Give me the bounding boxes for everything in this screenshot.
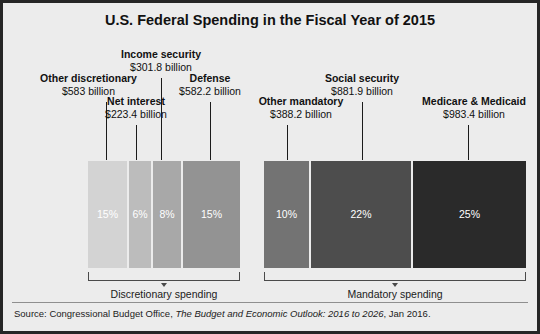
bar-income-security[interactable]: 8% (153, 161, 181, 268)
source-suffix: , Jan 2016. (384, 308, 431, 319)
leader-line-net-interest (136, 125, 137, 160)
callout-label-social-security: Social security (298, 72, 426, 85)
chart-title: U.S. Federal Spending in the Fiscal Year… (3, 12, 537, 28)
source-note: Source: Congressional Budget Office, The… (14, 308, 431, 319)
callout-value-medicare-medicaid: $983.4 billion (410, 108, 538, 121)
group-label-discretionary: Discretionary spending (88, 288, 240, 300)
callout-social-security: Social security $881.9 billion (298, 72, 426, 97)
leader-line-medicare-medicaid (468, 125, 469, 160)
bar-medicare-medicaid[interactable]: 25% (413, 161, 526, 268)
bracket-mandatory (264, 272, 526, 281)
callout-label-medicare-medicaid: Medicare & Medicaid (410, 95, 538, 108)
bar-pct-other-discretionary: 15% (88, 208, 127, 220)
bar-other-mandatory[interactable]: 10% (264, 161, 309, 268)
bracket-tick-mandatory (392, 283, 398, 287)
callout-value-social-security: $881.9 billion (298, 85, 426, 98)
bar-pct-defense: 15% (183, 208, 240, 220)
bar-pct-medicare-medicaid: 25% (413, 208, 526, 220)
callout-income-security: Income security $301.8 billion (97, 48, 225, 73)
callout-other-discretionary: Other discretionary $583 billion (11, 72, 166, 97)
leader-line-other-mandatory (287, 125, 288, 160)
callout-label-other-discretionary: Other discretionary (11, 72, 166, 85)
callout-defense: Defense $582.2 billion (155, 72, 265, 97)
bar-defense[interactable]: 15% (183, 161, 240, 268)
bar-pct-income-security: 8% (153, 208, 181, 220)
bracket-tick-discretionary (161, 283, 167, 287)
callout-value-net-interest: $223.4 billion (72, 108, 200, 121)
bar-net-interest[interactable]: 6% (129, 161, 151, 268)
bar-pct-social-security: 22% (311, 208, 411, 220)
bar-pct-net-interest: 6% (129, 208, 151, 220)
source-title: The Budget and Economic Outlook: 2016 to… (175, 308, 383, 319)
source-divider (12, 302, 528, 303)
bar-social-security[interactable]: 22% (311, 161, 411, 268)
callout-net-interest: Net interest $223.4 billion (72, 95, 200, 120)
figure-frame: U.S. Federal Spending in the Fiscal Year… (0, 0, 540, 334)
leader-line-social-security (362, 102, 363, 160)
group-label-mandatory: Mandatory spending (264, 288, 526, 300)
callout-value-other-mandatory: $388.2 billion (241, 108, 361, 121)
source-prefix: Source: Congressional Budget Office, (14, 308, 175, 319)
bar-pct-other-mandatory: 10% (264, 208, 309, 220)
bracket-discretionary (88, 272, 240, 281)
leader-line-defense (210, 102, 211, 160)
figure-canvas: U.S. Federal Spending in the Fiscal Year… (3, 3, 537, 331)
callout-label-defense: Defense (155, 72, 265, 85)
callout-other-mandatory: Other mandatory $388.2 billion (241, 95, 361, 120)
callout-label-income-security: Income security (97, 48, 225, 61)
callout-medicare-medicaid: Medicare & Medicaid $983.4 billion (410, 95, 538, 120)
bar-other-discretionary[interactable]: 15% (88, 161, 127, 268)
